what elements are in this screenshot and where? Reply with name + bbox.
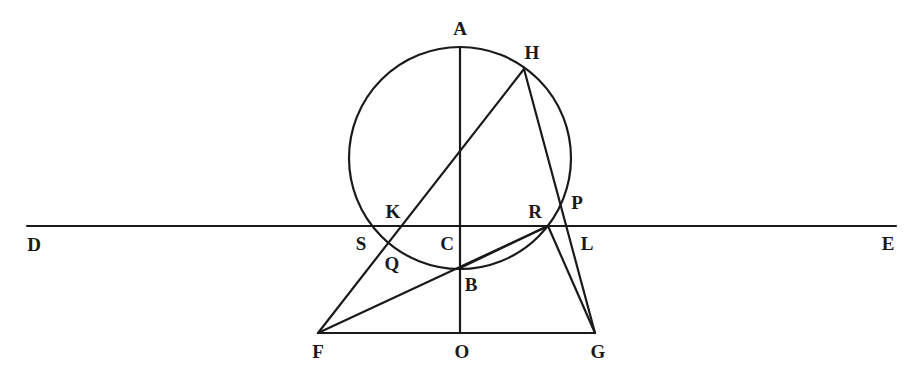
geometry-diagram: A H K R P D S C L E Q B F O G [0,0,917,376]
label-E: E [882,233,895,254]
label-R: R [528,201,542,222]
label-D: D [27,234,41,255]
label-P: P [571,192,583,213]
label-C: C [440,233,454,254]
label-F: F [312,341,324,362]
label-B: B [465,274,478,295]
label-G: G [591,341,606,362]
label-S: S [356,233,367,254]
label-H: H [525,42,540,63]
line-FH [318,69,524,333]
label-A: A [453,18,467,39]
label-O: O [455,341,470,362]
label-L: L [581,233,594,254]
line-BR [460,226,548,268]
label-Q: Q [385,253,400,274]
label-K: K [386,201,401,222]
